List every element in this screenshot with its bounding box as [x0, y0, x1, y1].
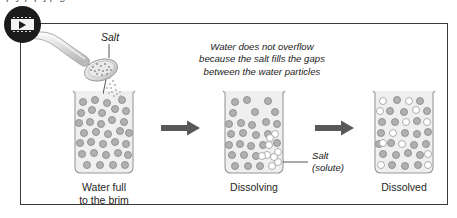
film-perforation-bottom [11, 30, 34, 33]
solute-label-line-2: (solute) [312, 162, 344, 174]
overflow-annotation: Water does not overflow because the salt… [187, 41, 337, 78]
beaker-stage-2-graphic [220, 89, 288, 175]
caption-stage-1-line-1: Water full [49, 181, 159, 194]
film-perforation-top [11, 16, 34, 19]
caption-stage-2-line-1: Dissolving [199, 181, 309, 194]
page-top-bleed: p y p p j p g [0, 0, 457, 5]
overflow-annotation-line-1: Water does not overflow [187, 41, 337, 53]
arrow-right-icon [161, 120, 201, 136]
caption-stage-3: Dissolved [349, 181, 457, 194]
solute-label-line-1: Salt [312, 150, 344, 162]
salt-pourer [31, 27, 141, 95]
figure-frame: Salt Water does not overflow because the… [20, 23, 448, 205]
play-triangle-icon [19, 21, 26, 29]
arrow-stage1-to-stage2 [161, 120, 201, 136]
page-top-bleed-text: p y p p j p g [6, 0, 65, 2]
overflow-annotation-line-2: because the salt fills the gaps [187, 53, 337, 65]
play-video-button[interactable] [4, 6, 41, 43]
solute-leader-line [283, 160, 309, 164]
caption-stage-2: Dissolving [199, 181, 309, 194]
solute-label: Salt (solute) [312, 150, 344, 174]
beaker-stage-3-graphic [370, 89, 438, 175]
caption-stage-1: Water full to the brim [49, 181, 159, 207]
film-play-icon [11, 16, 34, 33]
caption-stage-1-line-2: to the brim [49, 194, 159, 207]
caption-stage-3-line-1: Dissolved [349, 181, 457, 194]
overflow-annotation-line-3: between the water particles [187, 66, 337, 78]
arrow-stage2-to-stage3 [315, 120, 355, 136]
beaker-stage-1-graphic [70, 89, 138, 175]
beaker-stage-2 [220, 89, 288, 175]
arrow-right-icon [315, 120, 355, 136]
beaker-stage-1 [70, 89, 138, 175]
spoon-pouring-salt-icon [31, 27, 146, 97]
beaker-stage-3 [370, 89, 438, 175]
